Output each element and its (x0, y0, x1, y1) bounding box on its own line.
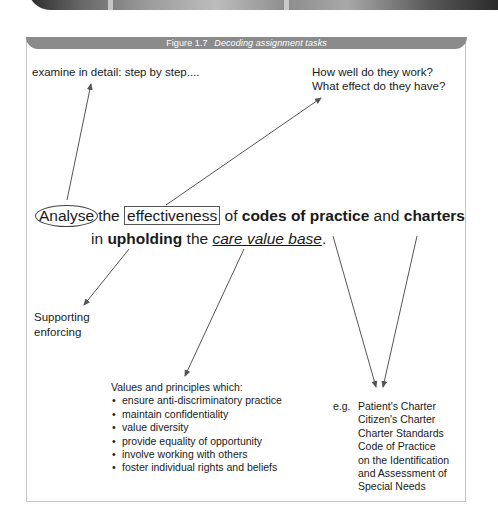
list-item: maintain confidentiality (111, 408, 282, 421)
word-the: the (187, 230, 209, 247)
period: . (322, 230, 326, 247)
arrow-codes-of-practice (333, 236, 376, 387)
list-item: Special Needs (358, 480, 449, 493)
word-in: in (91, 230, 103, 247)
values-list: ensure anti-discriminatory practice main… (111, 394, 282, 474)
analyse-keyword-circled: Analyse (35, 205, 98, 227)
list-item: Code of Practice (358, 440, 449, 453)
arrow-analyse (67, 84, 91, 200)
arrow-effectiveness (166, 98, 321, 205)
list-item: ensure anti-discriminatory practice (111, 394, 282, 407)
upholding-meaning-2: enforcing (34, 325, 81, 339)
upholding-meaning-1: Supporting (34, 310, 90, 324)
arrow-care-value-base (185, 249, 244, 376)
analyse-meaning: examine in detail: step by step.... (32, 65, 199, 79)
upholding-keyword: upholding (107, 230, 182, 247)
list-item: Charter Standards (358, 427, 449, 440)
task-statement-line-2: in upholding the care value base. (91, 229, 326, 249)
charters-keyword: charters (404, 207, 465, 224)
list-item: provide equality of opportunity (111, 435, 282, 448)
task-statement-line-1: Analysethe effectiveness of codes of pra… (39, 205, 465, 227)
list-item: involve working with others (111, 448, 282, 461)
codes-of-practice-keyword: codes of practice (242, 207, 370, 224)
effectiveness-question-1: How well do they work? (312, 65, 433, 79)
values-heading: Values and principles which: (111, 381, 282, 394)
effectiveness-question-2: What effect do they have? (312, 79, 445, 93)
list-item: foster individual rights and beliefs (111, 461, 282, 474)
list-item: and Assessment of (358, 467, 449, 480)
word-the: the (98, 207, 120, 224)
arrow-upholding (84, 249, 129, 305)
list-item: value diversity (111, 421, 282, 434)
examples-prefix: e.g. (333, 400, 351, 413)
list-item: on the Identification (358, 454, 449, 467)
word-of: of (225, 207, 238, 224)
list-item: Patient's Charter (358, 400, 449, 413)
examples-list: Patient's Charter Citizen's Charter Char… (358, 400, 449, 494)
effectiveness-keyword-boxed: effectiveness (124, 206, 220, 225)
list-item: Citizen's Charter (358, 413, 449, 426)
care-value-base-keyword: care value base (212, 230, 321, 247)
word-and: and (374, 207, 400, 224)
values-box: Values and principles which: ensure anti… (111, 381, 282, 475)
arrow-charters (383, 236, 417, 387)
